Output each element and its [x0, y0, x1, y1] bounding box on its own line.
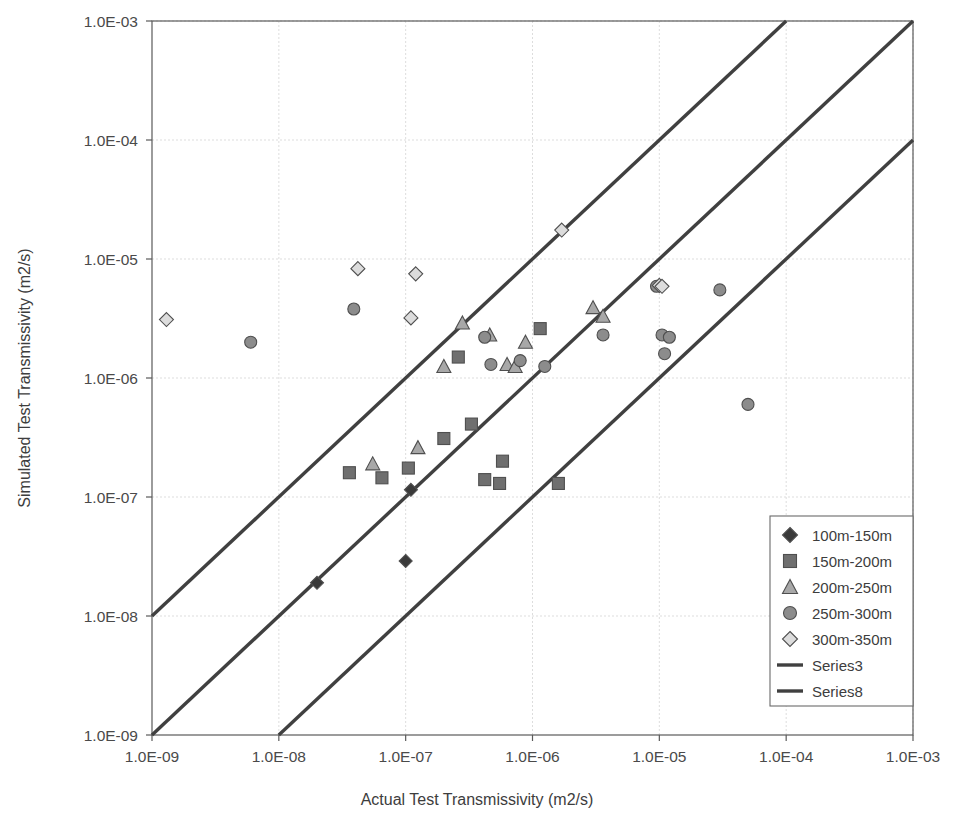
data-point	[376, 472, 388, 484]
data-point	[343, 467, 355, 479]
y-tick-label: 1.0E-09	[84, 727, 138, 744]
y-tick-label: 1.0E-08	[84, 608, 138, 625]
data-point	[742, 398, 754, 410]
legend-label: Series3	[812, 657, 863, 674]
legend-label: 100m-150m	[812, 527, 892, 544]
data-point	[534, 323, 546, 335]
data-point	[514, 355, 526, 367]
data-point	[539, 360, 551, 372]
legend-label: Series8	[812, 683, 863, 700]
data-point	[479, 474, 491, 486]
legend-marker-square	[784, 555, 797, 568]
data-point	[452, 351, 464, 363]
x-tick-label: 1.0E-08	[252, 748, 306, 765]
data-point	[479, 331, 491, 343]
x-tick-label: 1.0E-06	[505, 748, 559, 765]
x-tick-label: 1.0E-05	[632, 748, 686, 765]
x-tick-label: 1.0E-04	[759, 748, 814, 765]
data-point	[494, 477, 506, 489]
data-point	[552, 477, 564, 489]
y-axis-title: Simulated Test Transmissivity (m2/s)	[16, 248, 33, 507]
legend-label: 150m-200m	[812, 553, 892, 570]
chart-legend: 100m-150m150m-200m200m-250m250m-300m300m…	[770, 516, 913, 706]
x-tick-label: 1.0E-03	[886, 748, 940, 765]
x-axis-title: Actual Test Transmissivity (m2/s)	[361, 791, 594, 808]
y-tick-label: 1.0E-07	[84, 489, 138, 506]
data-point	[438, 433, 450, 445]
data-point	[714, 284, 726, 296]
scatter-chart: 1.0E-091.0E-081.0E-071.0E-061.0E-051.0E-…	[0, 0, 967, 831]
legend-label: 200m-250m	[812, 579, 892, 596]
x-tick-label: 1.0E-07	[379, 748, 433, 765]
y-tick-label: 1.0E-06	[84, 370, 138, 387]
data-point	[245, 336, 257, 348]
y-tick-label: 1.0E-05	[84, 251, 138, 268]
data-point	[597, 329, 609, 341]
y-tick-label: 1.0E-04	[84, 132, 139, 149]
data-point	[402, 462, 414, 474]
data-point	[663, 331, 675, 343]
data-point	[485, 358, 497, 370]
y-tick-label: 1.0E-03	[84, 13, 138, 30]
x-tick-label: 1.0E-09	[125, 748, 179, 765]
data-point	[496, 455, 508, 467]
data-point	[348, 303, 360, 315]
legend-label: 250m-300m	[812, 605, 892, 622]
data-point	[465, 418, 477, 430]
data-point	[659, 348, 671, 360]
chart-canvas: 1.0E-091.0E-081.0E-071.0E-061.0E-051.0E-…	[0, 0, 967, 831]
legend-marker-circle	[784, 607, 797, 620]
legend-label: 300m-350m	[812, 631, 892, 648]
